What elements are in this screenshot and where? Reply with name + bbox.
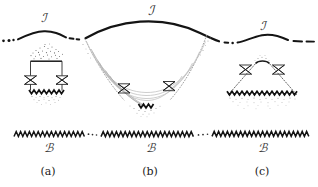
scri-dash-dot	[2, 39, 5, 42]
scri-dash-dot	[12, 39, 14, 41]
panel-caption-a: (a)	[40, 165, 55, 178]
panel-caption-c: (c)	[255, 165, 270, 178]
panel-caption-b: (b)	[142, 165, 158, 178]
scri-dash-dot	[231, 42, 234, 45]
conformal-diagram-figure: ℐ ℐ ℐ	[0, 0, 318, 187]
scri-dash-dot	[8, 39, 11, 42]
scri-gap-dash	[70, 38, 74, 39]
